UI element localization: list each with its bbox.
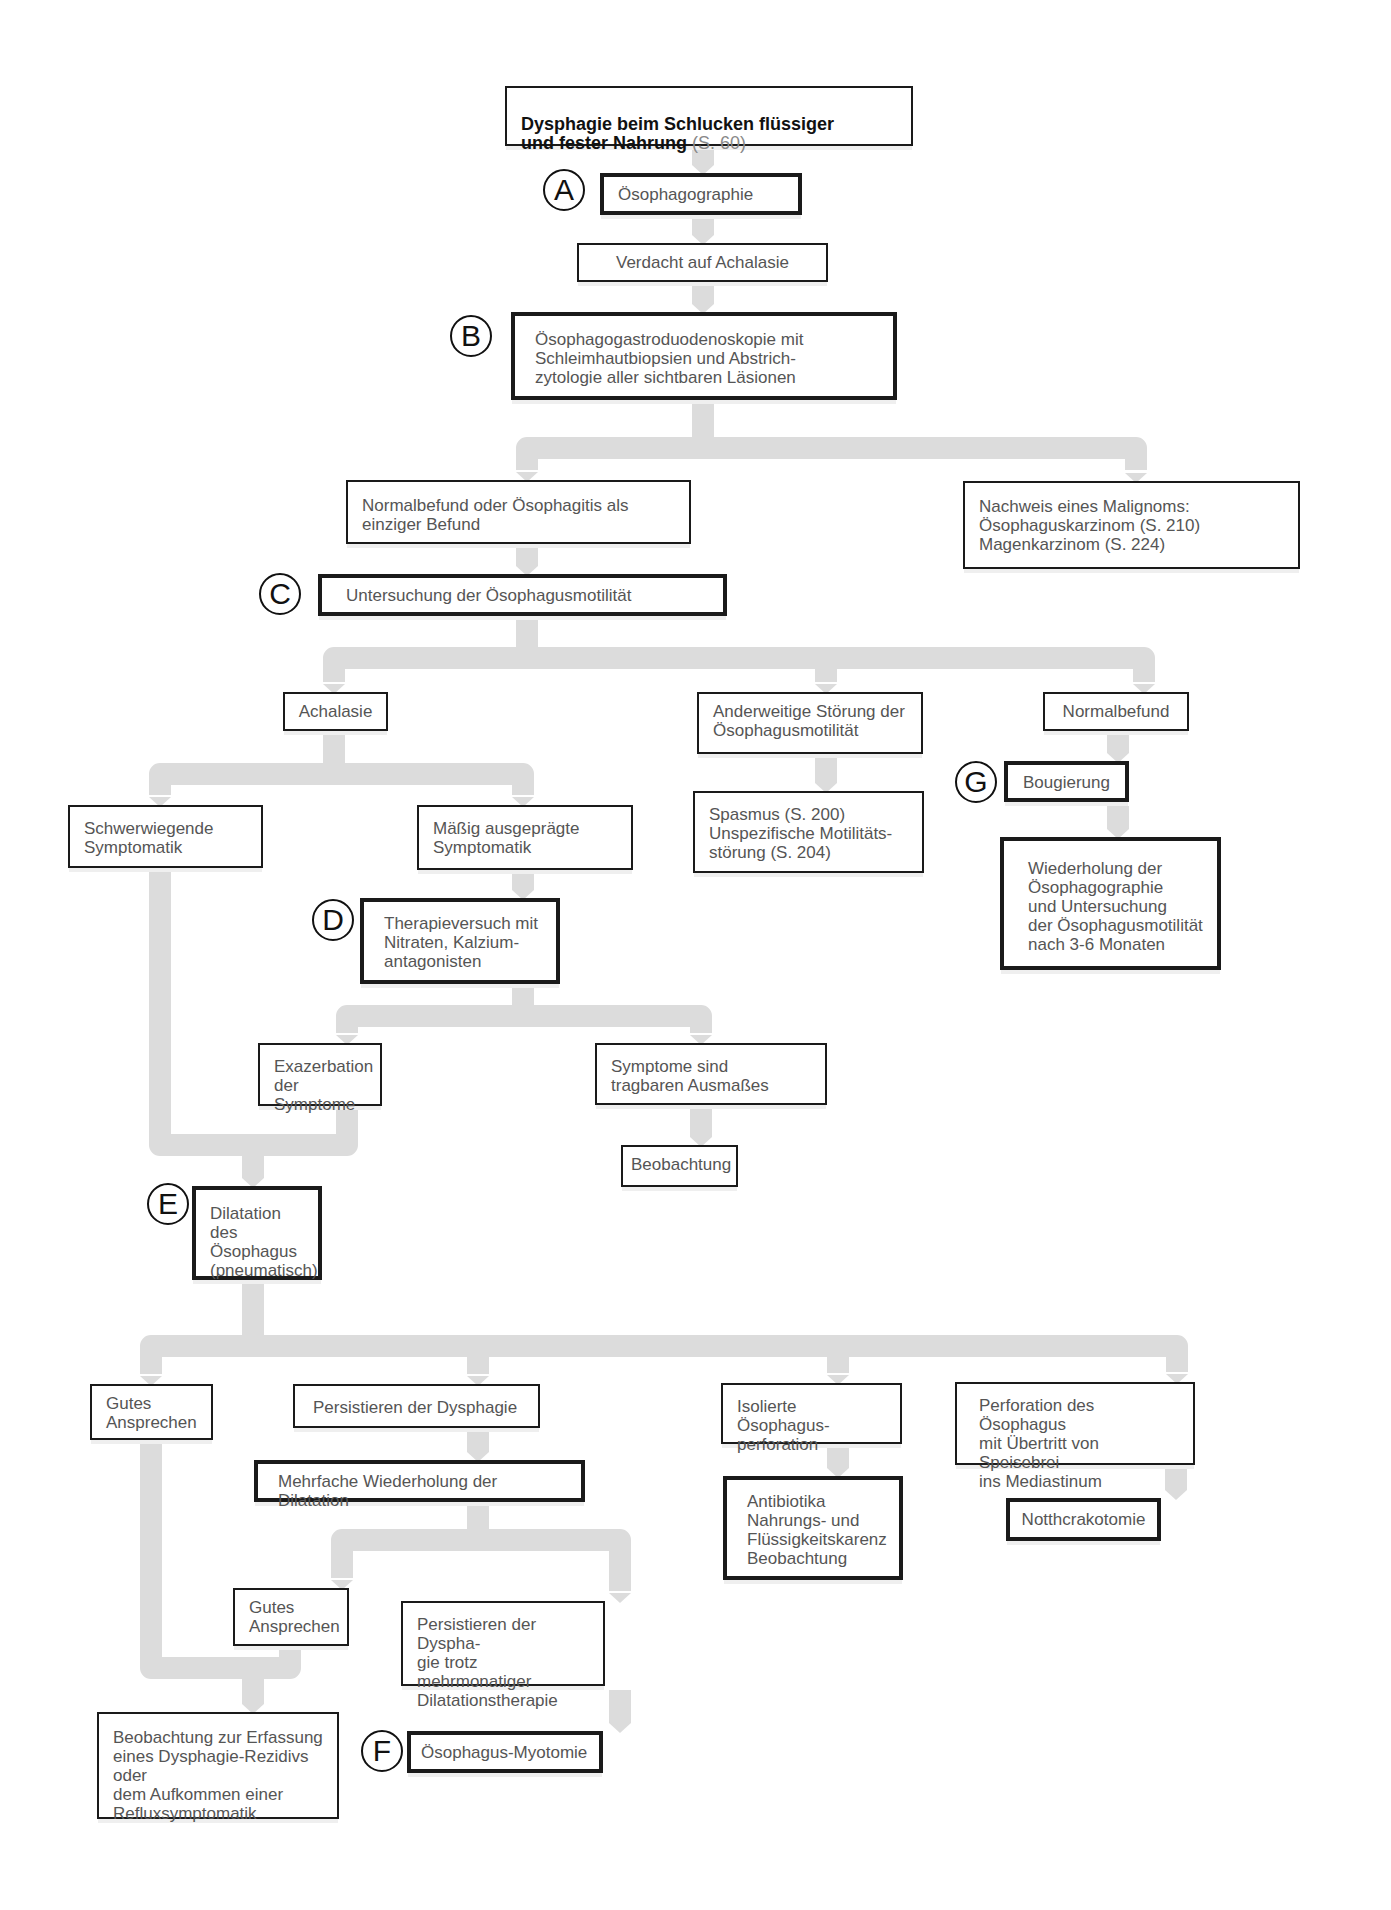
node-ogd: Ösophagogastroduodenoskopie mit Schleimh… [511,312,897,400]
node-myotomie: Ösophagus-Myotomie [407,1731,603,1773]
connector-perforation-to-notthorakotomie-arrowhead [1165,1490,1187,1500]
badge-d: D [312,899,354,941]
node-oesophagographie: Ösophagographie [600,173,802,215]
node-start: Dysphagie beim Schlucken flüssiger und f… [505,86,913,146]
node-normalbefund: Normalbefund [1043,692,1189,731]
badge-e: E [147,1183,189,1225]
node-normalbefund-oesophagitis: Normalbefund oder Ösophagitis als einzig… [346,480,691,544]
node-persistieren: Persistieren der Dysphagie [293,1384,540,1428]
node-spasmus: Spasmus (S. 200) Unspezifische Motilität… [693,791,924,873]
badge-b: B [450,315,492,357]
node-wiederholung: Wiederholung der Ösophagographie und Unt… [1000,837,1221,970]
connector-c-split [334,658,1144,682]
node-verdacht-achalasie: Verdacht auf Achalasie [577,243,828,282]
node-mehrfache-dilatation: Mehrfache Wiederholung der Dilatation [254,1460,585,1502]
connector-b-split [527,448,1136,470]
node-maessig: Mäßig ausgeprägte Symptomatik [417,805,633,870]
connector-mehrfache-split [342,1540,620,1591]
node-tragbar: Symptome sind tragbaren Ausmaßes [595,1043,827,1105]
node-gutes-ansprechen-2: Gutes Ansprechen [233,1588,349,1646]
node-dilatation: Dilatation des Ösophagus (pneumatisch) [192,1186,322,1280]
node-perforation-mediastinum: Perforation des Ösophagus mit Übertritt … [955,1382,1195,1465]
connector-e-split [151,1346,1177,1374]
node-therapieversuch: Therapieversuch mit Nitraten, Kalzium- a… [360,898,560,984]
node-malignom: Nachweis eines Malignoms: Ösophaguskarzi… [963,481,1300,569]
badge-c: C [259,573,301,615]
connector-achalasie-split [160,774,523,795]
badge-g: G [955,761,997,803]
connector-persist-to-f-arrowhead [609,1723,631,1733]
node-antibiotika: Antibiotika Nahrungs- und Flüssigkeitska… [723,1476,903,1580]
node-anderweitige: Anderweitige Störung der Ösophagusmotili… [697,692,923,754]
badge-a: A [543,169,585,211]
node-notthorakotomie: Notthcrakotomie [1006,1498,1161,1541]
connector-d-split [347,1016,701,1033]
node-beobachtung: Beobachtung [621,1145,738,1187]
node-motilitaet: Untersuchung der Ösophagusmotilität [318,574,727,616]
node-beobachtung-final: Beobachtung zur Erfassung eines Dysphagi… [97,1712,339,1819]
node-bougierung: Bougierung [1004,761,1129,802]
page-reference: (S. 60) [692,133,746,153]
node-achalasie: Achalasie [283,692,388,731]
node-gutes-ansprechen-1: Gutes Ansprechen [90,1384,213,1440]
node-schwerwiegend: Schwerwiegende Symptomatik [68,805,263,868]
flowchart: Dysphagie beim Schlucken flüssiger und f… [0,0,1391,1910]
badge-f: F [361,1730,403,1772]
connector-mehrfache-right-arrowhead [609,1593,631,1603]
node-isolierte-perforation: Isolierte Ösophagus- perforation [721,1383,902,1444]
node-persistieren-trotz: Persistieren der Dyspha- gie trotz mehrm… [401,1601,605,1686]
node-exazerbation: Exazerbation der Symptome [258,1043,382,1106]
